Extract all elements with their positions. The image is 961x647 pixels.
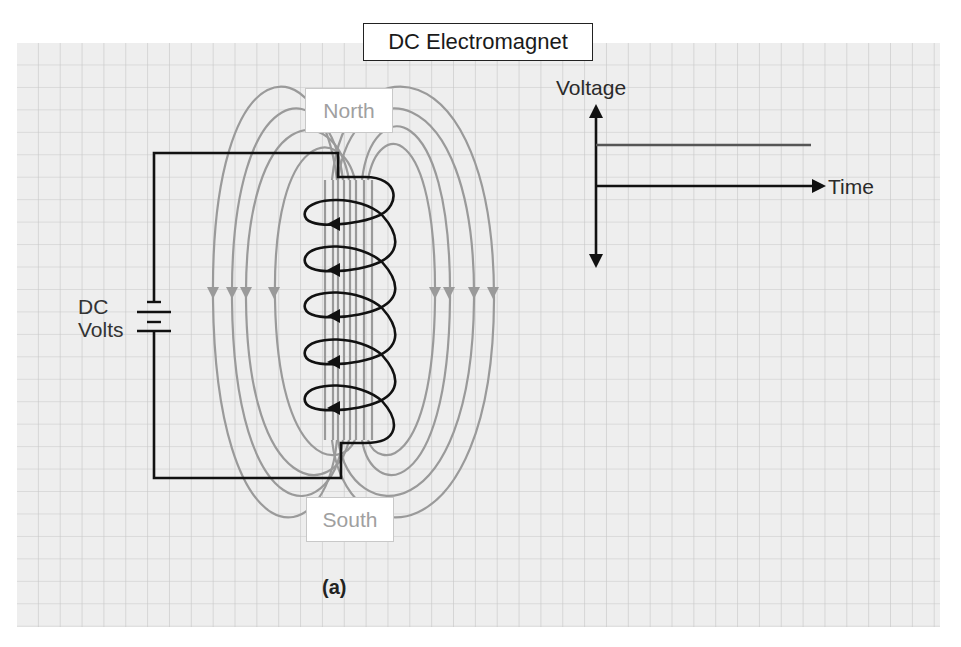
diagram-title-text: DC Electromagnet	[388, 29, 568, 55]
north-pole-label: North	[305, 88, 393, 133]
voltage-axis-label: Voltage	[556, 77, 626, 98]
dc-electromagnet-diagram: DC Electromagnet North South DC Volts Vo…	[0, 0, 961, 647]
graph-paper-background	[17, 43, 940, 627]
dc-volts-label: DC Volts	[78, 295, 124, 341]
south-pole-text: South	[323, 508, 378, 532]
dc-label-line1: DC	[78, 295, 124, 318]
diagram-canvas	[0, 0, 961, 647]
north-pole-text: North	[323, 99, 374, 123]
subfigure-label: (a)	[322, 577, 346, 597]
dc-label-line2: Volts	[78, 318, 124, 341]
time-axis-label: Time	[828, 176, 874, 197]
south-pole-label: South	[306, 497, 394, 542]
diagram-title: DC Electromagnet	[363, 23, 593, 61]
